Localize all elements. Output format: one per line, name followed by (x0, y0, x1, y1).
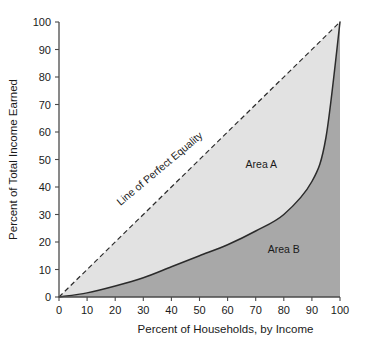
x-tick-label: 20 (109, 304, 121, 316)
x-tick-label: 40 (165, 304, 177, 316)
x-tick-label: 30 (137, 304, 149, 316)
x-tick-label: 80 (278, 304, 290, 316)
x-tick-label: 100 (331, 304, 349, 316)
x-tick-label: 70 (250, 304, 262, 316)
x-tick-label: 50 (193, 304, 205, 316)
y-tick-label: 100 (33, 16, 51, 28)
x-tick-label: 60 (221, 304, 233, 316)
x-tick-label: 90 (306, 304, 318, 316)
x-axis-title: Percent of Households, by Income (138, 323, 314, 335)
x-tick-label: 0 (56, 304, 62, 316)
y-tick-label: 0 (45, 291, 51, 303)
area-b-label: Area B (268, 243, 300, 255)
y-tick-label: 80 (39, 71, 51, 83)
y-tick-label: 30 (39, 209, 51, 221)
y-tick-label: 70 (39, 99, 51, 111)
y-tick-label: 20 (39, 236, 51, 248)
y-tick-label: 60 (39, 126, 51, 138)
y-axis-title: Percent of Total Income Earned (7, 79, 19, 240)
y-tick-label: 40 (39, 181, 51, 193)
area-a-label: Area A (246, 158, 278, 170)
chart-canvas: 0102030405060708090100 01020304050607080… (0, 0, 385, 349)
y-tick-label: 50 (39, 154, 51, 166)
y-tick-label: 90 (39, 44, 51, 56)
lorenz-curve-chart: 0102030405060708090100 01020304050607080… (0, 0, 385, 349)
y-tick-label: 10 (39, 264, 51, 276)
x-tick-label: 10 (81, 304, 93, 316)
